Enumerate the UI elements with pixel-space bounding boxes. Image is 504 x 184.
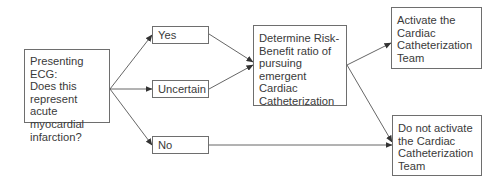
node-activate-team-label: Activate the Cardiac Catheterization Tea… bbox=[397, 14, 477, 64]
node-do-not-activate-team-label: Do not activate the Cardiac Catheterizat… bbox=[398, 122, 477, 172]
edge-yes-to-determine bbox=[209, 34, 253, 62]
edge-determine-to-activate bbox=[347, 43, 391, 65]
node-presenting-ecg: Presenting ECG: Does this represent acut… bbox=[24, 49, 110, 123]
node-determine-risk-benefit-label: Determine Risk- Benefit ratio of pursuin… bbox=[259, 32, 342, 108]
node-uncertain-label: Uncertain bbox=[158, 83, 204, 96]
edge-presenting-to-no bbox=[110, 89, 152, 145]
node-no: No bbox=[152, 136, 209, 154]
node-yes: Yes bbox=[152, 26, 209, 44]
edge-presenting-to-yes bbox=[110, 35, 152, 89]
node-do-not-activate-team: Do not activate the Cardiac Catheterizat… bbox=[392, 115, 482, 176]
node-uncertain: Uncertain bbox=[152, 80, 209, 98]
node-determine-risk-benefit: Determine Risk- Benefit ratio of pursuin… bbox=[253, 25, 347, 106]
node-presenting-ecg-label: Presenting ECG: Does this represent acut… bbox=[30, 55, 105, 143]
node-yes-label: Yes bbox=[158, 29, 204, 42]
edge-determine-to-do-not-activate bbox=[347, 65, 392, 142]
edge-uncertain-to-determine bbox=[209, 65, 253, 89]
node-activate-team: Activate the Cardiac Catheterization Tea… bbox=[391, 7, 482, 69]
node-no-label: No bbox=[158, 139, 204, 152]
